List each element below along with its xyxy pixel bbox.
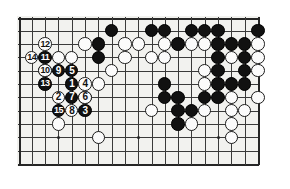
- white-stone[interactable]: [251, 37, 264, 50]
- white-stone[interactable]: [92, 131, 105, 144]
- black-stone[interactable]: [171, 117, 184, 130]
- black-stone[interactable]: [238, 37, 251, 50]
- numbered-stone-4[interactable]: 4: [78, 77, 91, 90]
- black-stone[interactable]: [211, 91, 224, 104]
- white-stone[interactable]: [52, 51, 65, 64]
- white-stone[interactable]: [52, 117, 65, 130]
- numbered-stone-3[interactable]: 3: [78, 104, 91, 117]
- move-number-label: 11: [41, 53, 50, 62]
- move-number-label: 15: [54, 106, 63, 115]
- move-number-label: 9: [56, 66, 61, 76]
- move-number-label: 1: [69, 79, 74, 89]
- grid-line-vertical: [112, 17, 113, 165]
- move-number-label: 7: [69, 92, 74, 102]
- white-stone[interactable]: [225, 51, 238, 64]
- black-stone[interactable]: [211, 64, 224, 77]
- white-stone[interactable]: [185, 117, 198, 130]
- black-stone[interactable]: [92, 51, 105, 64]
- white-stone[interactable]: [118, 51, 131, 64]
- black-stone[interactable]: [211, 24, 224, 37]
- white-stone[interactable]: [198, 77, 211, 90]
- move-number-label: 14: [27, 53, 36, 62]
- white-stone[interactable]: [118, 37, 131, 50]
- grid-line-vertical: [19, 17, 21, 165]
- white-stone[interactable]: [92, 77, 105, 90]
- black-stone[interactable]: [225, 37, 238, 50]
- numbered-stone-6[interactable]: 6: [78, 91, 91, 104]
- numbered-stone-1[interactable]: 1: [65, 77, 78, 90]
- black-stone[interactable]: [211, 37, 224, 50]
- grid-line-vertical: [32, 17, 33, 165]
- white-stone[interactable]: [185, 37, 198, 50]
- move-number-label: 5: [69, 66, 74, 76]
- move-number-label: 10: [41, 66, 50, 75]
- move-number-label: 4: [82, 79, 87, 89]
- black-stone[interactable]: [92, 37, 105, 50]
- black-stone[interactable]: [211, 51, 224, 64]
- white-stone[interactable]: [132, 37, 145, 50]
- black-stone[interactable]: [251, 24, 264, 37]
- numbered-stone-13[interactable]: 13: [38, 77, 51, 90]
- move-number-label: 6: [82, 92, 87, 102]
- white-stone[interactable]: [225, 117, 238, 130]
- move-number-label: 3: [82, 106, 87, 116]
- black-stone[interactable]: [158, 77, 171, 90]
- numbered-stone-10[interactable]: 10: [38, 64, 51, 77]
- white-stone[interactable]: [198, 37, 211, 50]
- move-number-label: 2: [56, 92, 61, 102]
- numbered-stone-11[interactable]: 11: [38, 51, 51, 64]
- grid-line-vertical: [152, 17, 153, 165]
- black-stone[interactable]: [171, 104, 184, 117]
- go-board[interactable]: 123456789101112131415: [0, 0, 290, 189]
- white-stone[interactable]: [78, 37, 91, 50]
- black-stone[interactable]: [211, 77, 224, 90]
- numbered-stone-12[interactable]: 12: [38, 37, 51, 50]
- move-number-label: 13: [41, 79, 50, 88]
- move-number-label: 8: [69, 106, 74, 116]
- move-number-label: 12: [41, 40, 50, 49]
- numbered-stone-2[interactable]: 2: [52, 91, 65, 104]
- black-stone[interactable]: [171, 37, 184, 50]
- black-stone[interactable]: [238, 77, 251, 90]
- white-stone[interactable]: [251, 91, 264, 104]
- white-stone[interactable]: [251, 51, 264, 64]
- black-stone[interactable]: [171, 91, 184, 104]
- white-stone[interactable]: [251, 64, 264, 77]
- white-stone[interactable]: [225, 131, 238, 144]
- white-stone[interactable]: [225, 91, 238, 104]
- go-diagram: 123456789101112131415: [0, 0, 290, 189]
- black-stone[interactable]: [225, 77, 238, 90]
